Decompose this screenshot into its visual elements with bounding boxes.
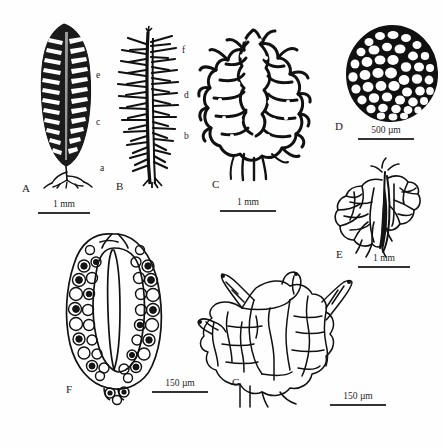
scalebar-a-text: 1 mm	[38, 198, 90, 210]
scalebar-d-text: 500 µm	[358, 124, 414, 136]
scalebar-d-line	[358, 138, 414, 140]
panel-b-sublabel-f: f	[182, 45, 185, 55]
panel-e-drawing	[330, 158, 430, 258]
scalebar-c-line	[220, 210, 276, 212]
panel-d-illustration	[344, 24, 440, 124]
panel-c-drawing	[198, 22, 313, 182]
scalebar-g-text: 150 µm	[330, 390, 386, 402]
scalebar-e: 1 mm	[358, 252, 410, 268]
panel-g-drawing	[198, 272, 353, 407]
panel-label-b: B	[116, 180, 124, 192]
panel-label-e: E	[336, 248, 343, 260]
panel-b-sublabel-e: e	[96, 70, 100, 80]
panel-label-g: G	[232, 376, 240, 388]
panel-f-drawing	[52, 222, 192, 402]
scalebar-c-text: 1 mm	[220, 196, 276, 208]
scalebar-a: 1 mm	[38, 198, 90, 214]
panel-b-sublabel-c: c	[96, 117, 100, 127]
figure-plate: A 1 mm	[0, 0, 445, 448]
scalebar-e-line	[358, 266, 410, 268]
panel-f-illustration	[52, 222, 192, 402]
scalebar-e-text: 1 mm	[358, 252, 410, 264]
scalebar-g-line	[330, 404, 386, 406]
panel-b-sublabel-a: a	[100, 163, 104, 173]
scalebar-d: 500 µm	[358, 124, 414, 140]
panel-e-illustration	[330, 158, 430, 258]
panel-c-illustration	[198, 22, 313, 182]
panel-label-c: C	[212, 178, 220, 190]
panel-label-a: A	[22, 182, 30, 194]
panel-d-drawing	[344, 24, 440, 124]
scalebar-a-line	[38, 212, 90, 214]
panel-g-illustration	[198, 272, 353, 407]
panel-b-illustration	[108, 28, 188, 188]
panel-b-sublabel-d: d	[184, 90, 189, 100]
panel-b-sublabel-b: b	[184, 131, 189, 141]
panel-label-d: D	[335, 120, 343, 132]
panel-label-f: F	[66, 383, 72, 395]
panel-a-illustration	[22, 18, 112, 188]
scalebar-c: 1 mm	[220, 196, 276, 212]
scalebar-g: 150 µm	[330, 390, 386, 406]
panel-b-drawing	[108, 28, 188, 188]
panel-a-drawing	[22, 18, 112, 188]
